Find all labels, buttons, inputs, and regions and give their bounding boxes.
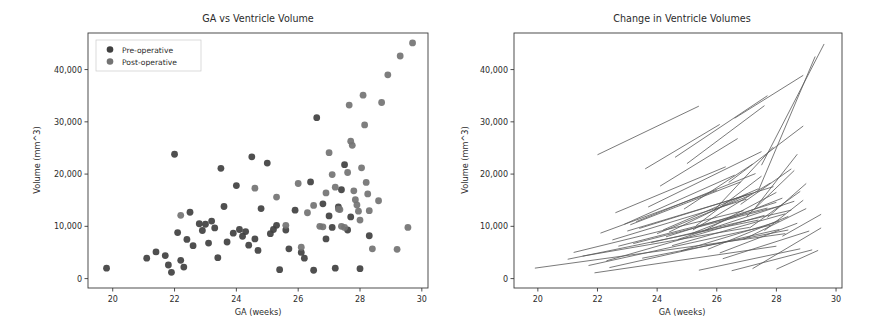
y-tick-label: 20,000 xyxy=(480,170,508,179)
scatter-point xyxy=(273,222,280,229)
scatter-point xyxy=(361,122,368,129)
scatter-xlabel: GA (weeks) xyxy=(235,307,282,317)
scatter-point xyxy=(326,149,333,156)
y-tick-label: 0 xyxy=(503,275,508,284)
scatter-point xyxy=(264,160,271,167)
scatter-point xyxy=(208,218,215,225)
scatter-point xyxy=(360,92,367,99)
y-tick-label: 10,000 xyxy=(480,222,508,231)
scatter-point xyxy=(329,224,336,231)
scatter-point xyxy=(214,254,221,261)
scatter-point xyxy=(366,232,373,239)
change-line xyxy=(714,147,774,211)
scatter-point xyxy=(224,239,231,246)
scatter-point xyxy=(252,185,259,192)
scatter-point xyxy=(301,255,308,262)
scatter-point xyxy=(258,205,265,212)
y-tick-label: 20,000 xyxy=(54,170,82,179)
scatter-point xyxy=(184,236,191,243)
y-tick-label: 0 xyxy=(77,275,82,284)
x-tick-label: 24 xyxy=(652,295,662,304)
spaghetti-xlabel: GA (weeks) xyxy=(659,307,706,317)
legend-label-post-operative: Post-operative xyxy=(122,58,177,67)
change-line xyxy=(761,44,824,165)
scatter-point xyxy=(341,224,348,231)
scatter-point xyxy=(369,245,376,252)
scatter-point xyxy=(276,266,283,273)
scatter-point xyxy=(307,179,314,186)
change-line xyxy=(759,57,816,191)
scatter-point xyxy=(363,179,370,186)
scatter-point xyxy=(323,235,330,242)
legend-label-pre-operative: Pre-operative xyxy=(122,46,173,55)
scatter-point xyxy=(320,200,327,207)
scatter-point xyxy=(171,151,178,158)
scatter-ylabel: Volume (mm^3) xyxy=(32,126,42,193)
y-tick-label: 30,000 xyxy=(480,118,508,127)
scatter-point xyxy=(218,165,225,172)
scatter-point xyxy=(346,102,353,109)
change-line xyxy=(684,164,753,209)
change-line xyxy=(645,124,720,168)
scatter-point xyxy=(168,269,175,276)
scatter-point xyxy=(143,255,150,262)
change-line xyxy=(615,167,725,213)
scatter-point xyxy=(364,191,371,198)
scatter-point xyxy=(310,267,317,274)
x-tick-label: 30 xyxy=(831,295,841,304)
x-tick-label: 28 xyxy=(771,295,781,304)
scatter-point xyxy=(409,40,416,47)
change-line xyxy=(776,250,818,269)
legend-marker-pre-operative xyxy=(107,46,114,53)
scatter-point xyxy=(338,186,345,193)
scatter-point xyxy=(357,265,364,272)
scatter-x-ticks: 202224262830 xyxy=(108,288,427,304)
scatter-point xyxy=(165,262,172,269)
scatter-point xyxy=(366,207,373,214)
scatter-point xyxy=(252,235,259,242)
scatter-point xyxy=(355,208,362,215)
scatter-point xyxy=(153,249,160,256)
scatter-point xyxy=(255,247,262,254)
scatter-point xyxy=(245,242,252,249)
scatter-point xyxy=(397,53,404,60)
scatter-point xyxy=(298,244,305,251)
scatter-point xyxy=(323,189,330,196)
scatter-point xyxy=(199,227,206,234)
scatter-point xyxy=(174,229,181,236)
y-tick-label: 40,000 xyxy=(54,66,82,75)
scatter-point xyxy=(394,246,401,253)
x-tick-label: 24 xyxy=(231,295,241,304)
scatter-point xyxy=(384,71,391,78)
scatter-svg: GA vs Ventricle Volume 202224262830 010,… xyxy=(0,0,440,332)
scatter-point xyxy=(177,212,184,219)
scatter-point xyxy=(205,240,212,247)
change-line xyxy=(687,106,765,164)
change-line xyxy=(767,183,806,217)
scatter-point xyxy=(332,265,339,272)
scatter-point xyxy=(337,206,344,213)
scatter-point xyxy=(378,99,385,106)
y-tick-label: 10,000 xyxy=(54,222,82,231)
scatter-point xyxy=(177,257,184,264)
scatter-points xyxy=(103,40,416,276)
x-tick-label: 26 xyxy=(293,295,303,304)
scatter-point xyxy=(196,220,203,227)
scatter-point xyxy=(103,265,110,272)
spaghetti-panel: Change in Ventricle Volumes 202224262830… xyxy=(432,0,872,332)
scatter-point xyxy=(347,214,354,221)
x-tick-label: 26 xyxy=(712,295,722,304)
spaghetti-ylabel: Volume (mm^3) xyxy=(460,126,470,193)
change-line xyxy=(597,106,698,155)
scatter-point xyxy=(236,226,243,233)
y-tick-label: 40,000 xyxy=(480,66,508,75)
spaghetti-title: Change in Ventricle Volumes xyxy=(613,13,750,24)
scatter-legend: Pre-operative Post-operative xyxy=(96,40,201,71)
y-tick-label: 30,000 xyxy=(54,118,82,127)
scatter-point xyxy=(292,207,299,214)
spaghetti-y-ticks: 010,00020,00030,00040,000 xyxy=(480,66,514,284)
scatter-point xyxy=(313,114,320,121)
spaghetti-lines xyxy=(535,44,824,273)
scatter-point xyxy=(349,142,356,149)
scatter-point xyxy=(329,171,336,178)
